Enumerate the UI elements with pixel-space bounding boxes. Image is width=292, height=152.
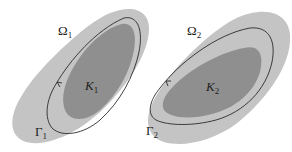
panel-2 [148, 12, 290, 144]
label-k-1-subscript: 1 [94, 85, 99, 95]
label-gamma-2-symbol: Γ [146, 123, 154, 138]
label-omega-2-symbol: Ω [187, 23, 197, 38]
label-gamma-1-symbol: Γ [35, 124, 43, 139]
two-domain-diagram: Ω1 K1 Γ1 Ω2 K2 Γ2 [0, 0, 292, 152]
label-gamma-1-subscript: 1 [43, 131, 48, 141]
label-gamma-2-subscript: 2 [154, 130, 159, 140]
label-k-2-symbol: K [206, 79, 215, 94]
label-k-2-subscript: 2 [215, 86, 220, 96]
label-omega-2: Ω2 [187, 24, 201, 40]
panel-1 [12, 9, 149, 143]
label-gamma-2: Γ2 [146, 124, 158, 140]
label-k-1: K1 [85, 79, 98, 95]
label-omega-1-subscript: 1 [68, 30, 73, 40]
label-omega-2-subscript: 2 [197, 30, 202, 40]
label-omega-1: Ω1 [58, 24, 72, 40]
label-k-1-symbol: K [85, 78, 94, 93]
label-omega-1-symbol: Ω [58, 23, 68, 38]
label-gamma-1: Γ1 [35, 125, 47, 141]
label-k-2: K2 [206, 80, 219, 96]
